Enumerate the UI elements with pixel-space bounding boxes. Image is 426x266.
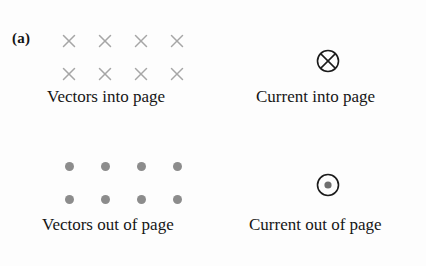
grid-cell [159,24,195,57]
circle-cross-into-page-icon [313,46,343,76]
grid-cell [51,57,87,90]
dot-out-of-page-icon [137,195,146,204]
grid-cell [87,183,123,216]
caption-vectors-out-of-page: Vectors out of page [42,215,174,235]
caption-current-out-of-page: Current out of page [249,215,382,235]
grid-cell [123,57,159,90]
grid-cell [123,24,159,57]
circle-dot-out-of-page-icon [313,170,343,200]
panel-label: (a) [12,30,30,47]
dot-out-of-page-icon [101,162,110,171]
grid-cell [51,183,87,216]
caption-current-into-page: Current into page [256,87,375,107]
cross-into-page-icon [62,34,76,48]
cross-into-page-icon [134,67,148,81]
dot-out-of-page-icon [65,195,74,204]
field-direction-notation-figure: (a) [0,0,426,266]
dot-out-of-page-icon [65,162,74,171]
cross-into-page-icon [134,34,148,48]
grid-cell [159,183,195,216]
grid-cell [87,57,123,90]
cross-into-page-icon [170,34,184,48]
cross-into-page-icon [62,67,76,81]
grid-cell [51,150,87,183]
dot-out-of-page-icon [173,162,182,171]
grid-cell [87,150,123,183]
cross-into-page-icon [98,34,112,48]
cross-into-page-icon [170,67,184,81]
dot-out-of-page-icon [101,195,110,204]
grid-cell [123,183,159,216]
grid-cell [51,24,87,57]
grid-cell [159,150,195,183]
dot-out-of-page-icon [137,162,146,171]
cross-symbol-grid [51,24,195,90]
grid-cell [159,57,195,90]
dot-out-of-page-icon [173,195,182,204]
dot-symbol-grid [51,150,195,216]
grid-cell [123,150,159,183]
cross-into-page-icon [98,67,112,81]
caption-vectors-into-page: Vectors into page [47,87,165,107]
grid-cell [87,24,123,57]
